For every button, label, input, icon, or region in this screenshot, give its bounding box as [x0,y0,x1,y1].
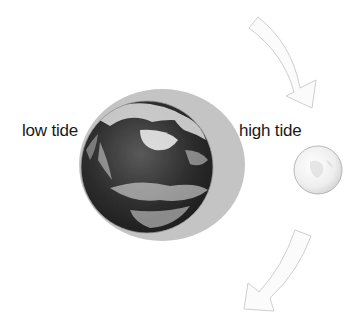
high-tide-label: high tide [239,121,301,141]
low-tide-label: low tide [22,121,78,141]
moon-icon [294,146,342,194]
earth-icon [81,101,213,233]
tides-diagram [0,0,363,327]
orbit-arrow-bottom-icon [244,230,311,311]
orbit-arrow-top-icon [249,17,316,108]
